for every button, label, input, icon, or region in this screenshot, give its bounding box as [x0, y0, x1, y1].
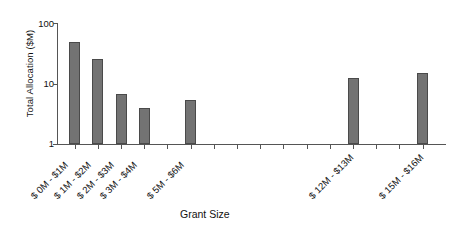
x-tick-label: $ 5M - $6M	[145, 160, 186, 201]
x-tick-mark	[121, 145, 122, 149]
y-tick-label-1: 1	[28, 139, 54, 149]
y-tick-mark-100	[53, 23, 57, 24]
x-tick-mark	[283, 145, 284, 149]
x-tick-mark	[237, 145, 238, 149]
bar	[116, 94, 127, 144]
x-tick-mark	[191, 145, 192, 149]
x-tick-mark	[330, 145, 331, 149]
x-axis-tick-labels: $ 0M - $1M$ 1M - $2M$ 2M - $3M$ 3M - $4M…	[57, 150, 451, 220]
x-tick-mark	[214, 145, 215, 149]
x-tick-mark	[376, 145, 377, 149]
y-tick-label-10: 10	[28, 79, 54, 89]
x-tick-mark	[399, 145, 400, 149]
bar-chart: Total Allocation ($M) 100 10 1 $ 0M - $1…	[0, 0, 451, 235]
bar	[92, 59, 103, 144]
x-tick-mark	[423, 145, 424, 149]
x-tick-mark	[98, 145, 99, 149]
y-tick-mark-10	[53, 84, 57, 85]
bar	[417, 73, 428, 144]
x-tick-mark	[260, 145, 261, 149]
bar	[185, 100, 196, 144]
x-tick-mark	[167, 145, 168, 149]
x-tick-mark	[307, 145, 308, 149]
x-axis-line	[57, 144, 446, 145]
y-axis-tick-labels: 100 10 1	[26, 0, 54, 235]
x-tick-mark	[353, 145, 354, 149]
bar	[69, 42, 80, 144]
y-axis-line	[57, 23, 58, 145]
x-tick-mark	[75, 145, 76, 149]
x-tick-label: $ 12M - $13M	[307, 153, 356, 202]
y-tick-mark-1	[53, 144, 57, 145]
x-tick-mark	[144, 145, 145, 149]
bar	[139, 108, 150, 144]
plot-area	[57, 23, 446, 145]
y-tick-label-100: 100	[28, 19, 54, 29]
x-axis-title: Grant Size	[180, 208, 230, 220]
x-tick-label: $ 15M - $16M	[377, 153, 426, 202]
bar	[348, 78, 359, 144]
